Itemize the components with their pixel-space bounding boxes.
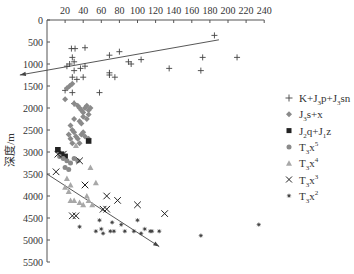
diamond-marker <box>71 116 77 122</box>
x-marker <box>134 202 141 209</box>
asterisk-marker <box>199 233 203 237</box>
plus-marker <box>71 68 77 74</box>
x-tick-label: 220 <box>239 5 254 16</box>
y-tick-label: 1000 <box>23 59 43 70</box>
x-tick-label: 80 <box>114 5 124 16</box>
plus-marker <box>200 54 206 60</box>
plus-marker <box>116 49 122 55</box>
x-tick-label: 120 <box>148 5 163 16</box>
asterisk-marker <box>123 229 127 233</box>
y-tick-label: 5500 <box>23 257 43 268</box>
plus-marker <box>211 32 217 38</box>
square-marker <box>287 128 292 133</box>
plus-marker <box>69 90 75 96</box>
asterisk-marker <box>257 222 261 226</box>
x-marker <box>53 169 60 176</box>
square-marker <box>86 138 92 144</box>
y-tick-label: 2500 <box>23 125 43 136</box>
asterisk-marker <box>101 231 105 235</box>
y-tick-label: 500 <box>28 37 43 48</box>
x-tick-label: 240 <box>257 5 272 16</box>
y-tick-label: 0 <box>38 15 43 26</box>
asterisk-marker <box>150 229 154 233</box>
x-tick-label: 140 <box>166 5 181 16</box>
x-marker <box>103 206 110 213</box>
diamond-marker <box>62 96 68 102</box>
triangle-marker <box>77 200 83 206</box>
legend-item: J3s+x <box>286 108 323 123</box>
legend-item: K+J3p+J3sn <box>286 92 351 107</box>
asterisk-marker <box>132 229 136 233</box>
asterisk-marker <box>135 218 139 222</box>
legend-label: T3x4 <box>299 156 319 172</box>
x-tick-label: 40 <box>78 5 88 16</box>
x-marker <box>73 213 80 220</box>
lower-trend <box>47 174 159 247</box>
axes: 2040608010012014016018020022024005001000… <box>23 5 272 268</box>
triangle-marker <box>87 164 93 170</box>
legend-label: J2q+J1z <box>299 125 331 140</box>
y-tick-label: 5000 <box>23 235 43 246</box>
y-tick-label: 3000 <box>23 147 43 158</box>
x-marker <box>161 210 168 217</box>
x-tick-label: 180 <box>202 5 217 16</box>
asterisk-marker <box>287 194 291 198</box>
legend-label: J3s+x <box>299 108 323 123</box>
y-tick-label: 2000 <box>23 103 43 114</box>
trend-lines <box>20 40 219 247</box>
asterisk-marker <box>157 229 161 233</box>
asterisk-marker <box>139 231 143 235</box>
x-tick-label: 160 <box>184 5 199 16</box>
x-marker <box>69 213 76 220</box>
arrow-head-icon <box>153 241 159 246</box>
x-marker <box>103 193 110 200</box>
triangle-marker <box>64 175 70 181</box>
plus-marker <box>166 65 172 71</box>
y-tick-label: 3500 <box>23 169 43 180</box>
circle-marker <box>287 144 292 149</box>
y-tick-label: 1500 <box>23 81 43 92</box>
legend-label: T3x2 <box>299 189 319 205</box>
legend-item: J2q+J1z <box>287 125 332 140</box>
legend-item: T3x4 <box>286 156 319 172</box>
plus-marker <box>286 95 293 102</box>
plus-marker <box>96 90 102 96</box>
x-marker <box>82 182 89 189</box>
legend-item: T3x2 <box>287 189 319 205</box>
triangle-marker <box>286 160 292 166</box>
plus-marker <box>106 52 112 58</box>
x-tick-label: 200 <box>221 5 236 16</box>
asterisk-marker <box>99 227 103 231</box>
x-marker <box>286 177 292 183</box>
plus-marker <box>72 46 78 52</box>
asterisk-marker <box>143 227 147 231</box>
y-axis-label: 深度/m <box>3 133 16 167</box>
asterisk-marker <box>94 229 98 233</box>
asterisk-marker <box>112 229 116 233</box>
scatter-chart: 2040608010012014016018020022024005001000… <box>0 0 354 274</box>
legend-label: K+J3p+J3sn <box>299 92 351 107</box>
plus-marker <box>234 54 240 60</box>
triangle-marker <box>68 197 74 203</box>
x-tick-label: 100 <box>130 5 145 16</box>
legend-label: T3x5 <box>299 140 319 156</box>
plus-marker <box>80 74 86 80</box>
plus-marker <box>198 68 204 74</box>
circle-marker <box>66 167 71 172</box>
circle-marker <box>68 161 73 166</box>
asterisk-marker <box>97 218 101 222</box>
asterisk-marker <box>119 222 123 226</box>
x-marker <box>114 197 121 204</box>
y-tick-label: 4000 <box>23 191 43 202</box>
legend-item: T3x5 <box>287 140 319 156</box>
asterisk-marker <box>110 220 114 224</box>
arrow-head-icon <box>20 72 26 76</box>
x-tick-label: 60 <box>96 5 106 16</box>
plus-marker <box>112 74 118 80</box>
triangle-marker <box>68 182 74 188</box>
y-tick-label: 4500 <box>23 213 43 224</box>
plus-marker <box>82 45 88 51</box>
legend: K+J3p+J3snJ3s+xJ2q+J1zT3x5T3x4T3x3T3x2 <box>286 92 351 205</box>
legend-item: T3x3 <box>286 173 319 189</box>
legend-label: T3x3 <box>299 173 319 189</box>
